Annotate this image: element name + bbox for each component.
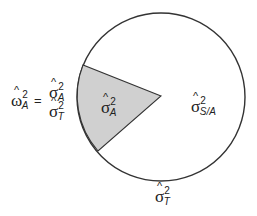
fraction-denominator-sigma-t: ^σ2T — [49, 103, 64, 120]
total-sigma-t-label: ^σ2T — [155, 188, 170, 205]
remainder-sigma-s-a-label: ^σ2S/A — [191, 98, 216, 115]
hat-mark: ^ — [14, 85, 19, 96]
equals-sign: = — [34, 93, 42, 108]
pie-diagram — [0, 0, 257, 216]
omega-squared-label: ^ω2A — [11, 92, 28, 109]
wedge-sigma-a-label: ^σ2A — [101, 99, 116, 116]
